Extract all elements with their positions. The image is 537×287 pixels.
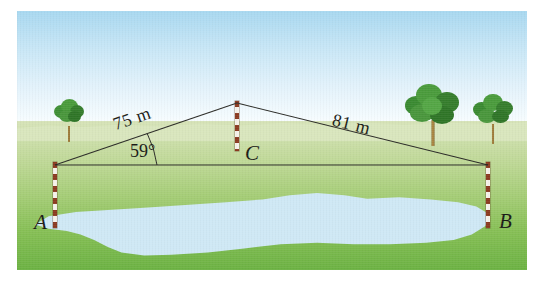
label-vertex-a: A <box>34 210 47 235</box>
label-vertex-c: C <box>245 141 259 166</box>
triangle-lines <box>17 11 527 270</box>
figure-canvas: 75 m 81 m 59° A B C <box>0 0 537 287</box>
label-vertex-b: B <box>499 209 512 234</box>
label-angle-a: 59° <box>130 141 155 162</box>
illustration-frame: 75 m 81 m 59° A B C <box>17 11 527 270</box>
